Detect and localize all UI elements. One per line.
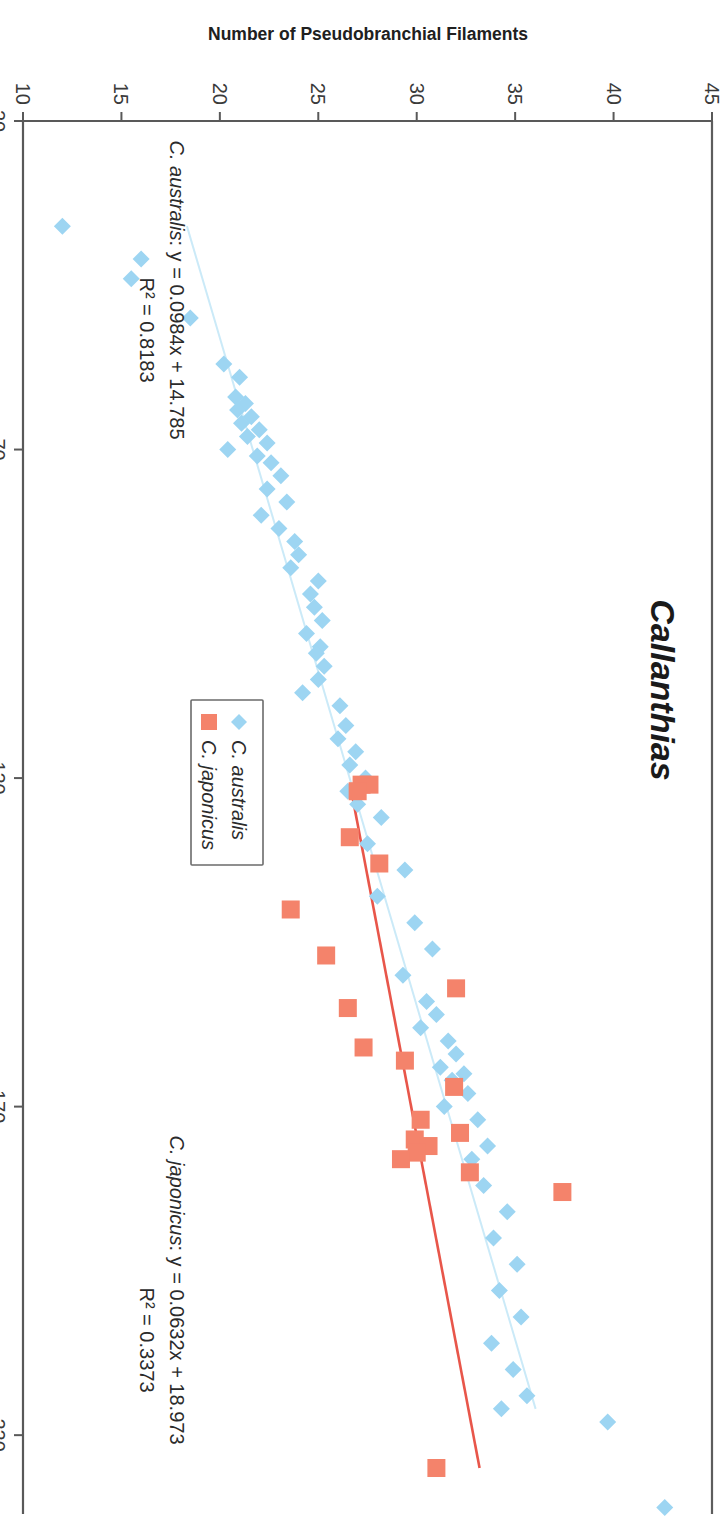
data-point-japonicus bbox=[396, 1052, 414, 1070]
chart-screenshot: 2070120170220 1015202530354045 Standard … bbox=[0, 0, 723, 1526]
data-point-japonicus bbox=[282, 900, 300, 918]
data-point-japonicus bbox=[553, 1183, 571, 1201]
svg-text:C. australis: y = 0.0984x + 14: C. australis: y = 0.0984x + 14.785 bbox=[166, 140, 188, 439]
y-tick-label: 35 bbox=[504, 83, 526, 105]
data-point-japonicus bbox=[392, 1150, 410, 1168]
data-point-japonicus bbox=[355, 1038, 373, 1056]
legend-marker-square bbox=[201, 714, 217, 730]
australis-eq-species: C. australis bbox=[166, 140, 188, 240]
data-point-japonicus bbox=[408, 1144, 426, 1162]
x-tick-label: 170 bbox=[0, 1090, 9, 1123]
data-point-japonicus bbox=[317, 946, 335, 964]
y-tick-label: 30 bbox=[406, 83, 428, 105]
y-tick-label: 10 bbox=[12, 83, 34, 105]
x-tick-label: 120 bbox=[0, 761, 9, 794]
data-point-japonicus bbox=[447, 979, 465, 997]
australis-eq-rest: : y = 0.0984x + 14.785 bbox=[166, 240, 188, 439]
data-point-japonicus bbox=[339, 999, 357, 1017]
chart-background bbox=[0, 0, 723, 1526]
data-point-japonicus bbox=[370, 854, 388, 872]
data-point-japonicus bbox=[445, 1078, 463, 1096]
data-point-japonicus bbox=[451, 1124, 469, 1142]
rotated-chart-canvas: 2070120170220 1015202530354045 Standard … bbox=[0, 0, 723, 1526]
data-point-japonicus bbox=[461, 1163, 479, 1181]
japonicus-r2: R² = 0.3373 bbox=[136, 1287, 158, 1392]
chart-title: Callanthias bbox=[644, 599, 682, 780]
y-tick-label: 20 bbox=[209, 83, 231, 105]
chart-legend[interactable]: C. australisC. japonicus bbox=[191, 700, 263, 865]
y-tick-label: 45 bbox=[701, 83, 723, 105]
x-tick-label: 220 bbox=[0, 1418, 9, 1451]
y-tick-label: 25 bbox=[307, 83, 329, 105]
scatter-chart: 2070120170220 1015202530354045 Standard … bbox=[0, 0, 723, 1526]
data-point-japonicus bbox=[427, 1459, 445, 1477]
x-tick-label: 70 bbox=[0, 438, 9, 460]
y-tick-label: 15 bbox=[110, 83, 132, 105]
legend-label[interactable]: C. japonicus bbox=[198, 740, 220, 850]
japonicus-eq-species: C. japonicus bbox=[166, 1135, 188, 1245]
y-axis-title: Number of Pseudobranchial Filaments bbox=[208, 24, 528, 44]
data-point-japonicus bbox=[349, 782, 367, 800]
japonicus-eq-rest: : y = 0.0632x + 18.973 bbox=[166, 1246, 188, 1445]
legend-label[interactable]: C. australis bbox=[228, 740, 250, 840]
x-tick-label: 20 bbox=[0, 110, 9, 132]
svg-text:C. japonicus: y = 0.0632x + 18: C. japonicus: y = 0.0632x + 18.973 bbox=[166, 1135, 188, 1444]
y-tick-label: 40 bbox=[603, 83, 625, 105]
data-point-japonicus bbox=[412, 1111, 430, 1129]
data-point-japonicus bbox=[341, 828, 359, 846]
australis-r2: R² = 0.8183 bbox=[136, 277, 158, 382]
